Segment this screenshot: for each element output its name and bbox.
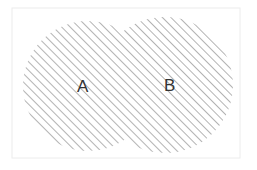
venn-diagram: A B (0, 0, 257, 170)
shaded-union-region (0, 0, 257, 170)
set-b-label: B (164, 76, 175, 95)
set-a-label: A (77, 77, 89, 96)
